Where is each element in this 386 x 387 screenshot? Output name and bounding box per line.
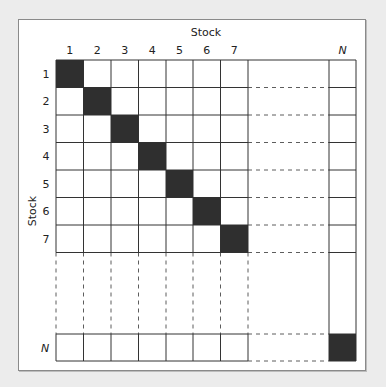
diagonal-cell-2 xyxy=(84,88,112,116)
diagonal-cell-3 xyxy=(111,115,139,143)
row-label-N: N xyxy=(41,342,49,355)
diagonal-cell-7 xyxy=(221,225,249,253)
column-label-6: 6 xyxy=(203,44,210,57)
diagonal-cell-4 xyxy=(139,143,167,171)
column-label-4: 4 xyxy=(149,44,156,57)
column-label-N: N xyxy=(338,44,346,57)
covariance-grid: Stock Stock 1234567N1234567N xyxy=(0,0,386,387)
row-label-4: 4 xyxy=(43,150,50,163)
column-label-7: 7 xyxy=(231,44,238,57)
top-axis-label: Stock xyxy=(191,26,222,39)
row-label-5: 5 xyxy=(43,178,50,191)
diagonal-cells xyxy=(56,60,356,361)
column-label-1: 1 xyxy=(66,44,73,57)
row-label-7: 7 xyxy=(43,233,50,246)
left-axis-label: Stock xyxy=(26,195,39,226)
diagonal-cell-6 xyxy=(193,198,221,226)
diagonal-cell-1 xyxy=(56,60,84,88)
diagonal-cell-5 xyxy=(166,170,193,198)
row-label-1: 1 xyxy=(43,68,50,81)
column-label-2: 2 xyxy=(94,44,101,57)
column-label-3: 3 xyxy=(121,44,128,57)
row-label-2: 2 xyxy=(43,95,50,108)
row-label-6: 6 xyxy=(43,205,50,218)
diagonal-cell-N xyxy=(329,334,356,361)
row-label-3: 3 xyxy=(43,123,50,136)
column-label-5: 5 xyxy=(176,44,183,57)
